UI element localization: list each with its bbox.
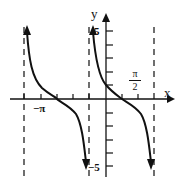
x-axis-label: x xyxy=(164,86,171,99)
y-axis-label: y xyxy=(91,7,98,20)
graph-canvas xyxy=(0,0,177,177)
y-axis-arrow-icon xyxy=(102,13,110,22)
fraction-numerator: π xyxy=(129,69,141,79)
x-tick-label-neg-pi: −π xyxy=(33,103,45,114)
fraction-denominator: 2 xyxy=(129,82,141,92)
y-tick-label-bottom: −5 xyxy=(88,162,100,173)
x-tick-label-pi-over-2: π 2 xyxy=(129,69,141,92)
y-tick-label-top: 5 xyxy=(94,26,100,37)
